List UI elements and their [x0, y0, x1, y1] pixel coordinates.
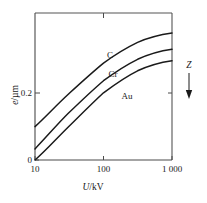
axis-title-y-text: e/µm: [10, 85, 20, 105]
axis-title-y: e/µm: [10, 85, 20, 105]
curve-au: [35, 61, 172, 160]
z-annotation: Z: [186, 60, 193, 99]
axis-ticks: [35, 13, 172, 160]
data-curves: [35, 33, 172, 160]
chart-plot: 10 100 1 000 0 0.2 U/kV e/µm C Cr Au Z: [0, 0, 207, 203]
axis-title-y-unit: /µm: [10, 85, 20, 101]
curve-cr: [35, 49, 172, 149]
axis-title-x-unit: /kV: [89, 182, 103, 192]
xtick-label-1000: 1 000: [162, 164, 183, 174]
ytick-label-0: 0: [28, 155, 33, 165]
plot-frame: [35, 13, 172, 160]
z-arrow-head-icon: [186, 90, 192, 99]
z-annotation-label: Z: [186, 60, 192, 70]
xtick-label-10: 10: [31, 164, 41, 174]
xtick-label-100: 100: [97, 164, 111, 174]
figure-container: 10 100 1 000 0 0.2 U/kV e/µm C Cr Au Z: [0, 0, 207, 203]
ytick-label-02: 0.2: [21, 88, 32, 98]
axis-title-x-text: U/kV: [82, 182, 103, 192]
series-label-c: C: [107, 50, 113, 60]
axis-title-x: U/kV: [82, 182, 103, 192]
series-label-au: Au: [122, 91, 133, 101]
series-label-cr: Cr: [109, 69, 118, 79]
